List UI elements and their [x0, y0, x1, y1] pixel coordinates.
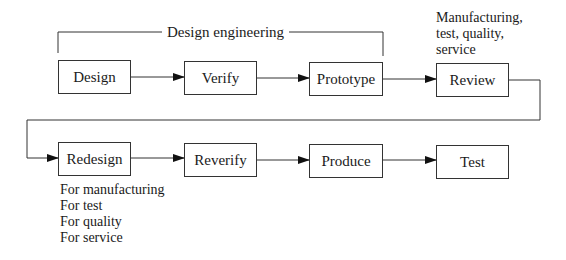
review-annotation-line: service — [436, 42, 523, 58]
redesign-annotation-line: For test — [60, 198, 165, 214]
redesign-annotation-line: For quality — [60, 214, 165, 230]
redesign-annotation-line: For service — [60, 230, 165, 246]
node-produce: Produce — [309, 144, 383, 178]
design-engineering-label: Design engineering — [162, 24, 289, 40]
node-verify: Verify — [184, 61, 257, 95]
node-redesign: Redesign — [58, 142, 131, 176]
review-annotation-line: Manufacturing, — [436, 10, 523, 26]
node-test: Test — [436, 145, 509, 179]
redesign-annotation-line: For manufacturing — [60, 182, 165, 198]
node-prototype: Prototype — [309, 62, 383, 96]
node-review: Review — [436, 63, 509, 97]
redesign-annotation: For manufacturing For test For quality F… — [60, 182, 165, 246]
review-annotation: Manufacturing, test, quality, service — [436, 10, 523, 58]
node-reverify: Reverify — [184, 143, 257, 177]
review-annotation-line: test, quality, — [436, 26, 523, 42]
node-design: Design — [58, 60, 131, 94]
